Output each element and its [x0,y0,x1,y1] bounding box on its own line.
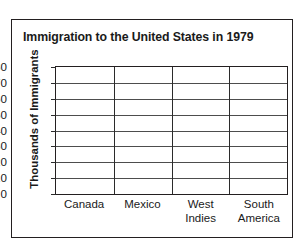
y-axis-tick-mark [51,67,56,68]
x-axis-category-label: Canada [55,198,113,225]
y-axis-tick-mark [51,178,56,179]
y-axis-title: Thousands of Immigrants [28,49,40,189]
y-axis-tick-label: 50 [0,109,7,121]
x-axis-category-label: Mexico [113,198,171,225]
y-axis-tick-label: 70 [0,77,7,89]
y-axis-tick-mark [51,115,56,116]
y-axis-tick-mark [51,194,56,195]
y-axis-tick-label: 20 [0,156,7,168]
x-axis-category-label-line: Mexico [113,198,171,212]
y-axis-tick-label: 10 [0,172,7,184]
category-divider [172,67,173,194]
x-axis-category-label-line: Indies [172,212,230,226]
plot-area: 80706050403020100 [55,66,288,195]
category-divider [229,67,230,194]
y-axis-tick-mark [51,83,56,84]
x-axis-category-label-line: South [230,198,288,212]
x-axis-category-labels: CanadaMexicoWestIndiesSouthAmerica [55,198,288,225]
y-axis-tick-label: 0 [0,188,7,200]
y-axis-tick-label: 30 [0,140,7,152]
x-axis-category-label-line: Canada [55,198,113,212]
chart-title: Immigration to the United States in 1979 [23,30,253,44]
x-axis-category-label-line: West [172,198,230,212]
chart-figure-frame: Immigration to the United States in 1979… [11,19,293,238]
y-axis-tick-label: 80 [0,61,7,73]
x-axis-category-label: SouthAmerica [230,198,288,225]
y-axis-tick-mark [51,146,56,147]
x-axis-category-label-line: America [230,212,288,226]
y-axis-tick-mark [51,131,56,132]
y-axis-tick-label: 60 [0,93,7,105]
category-divider [114,67,115,194]
x-axis-category-label: WestIndies [172,198,230,225]
y-axis-tick-label: 40 [0,125,7,137]
y-axis-tick-mark [51,99,56,100]
y-axis-tick-mark [51,162,56,163]
